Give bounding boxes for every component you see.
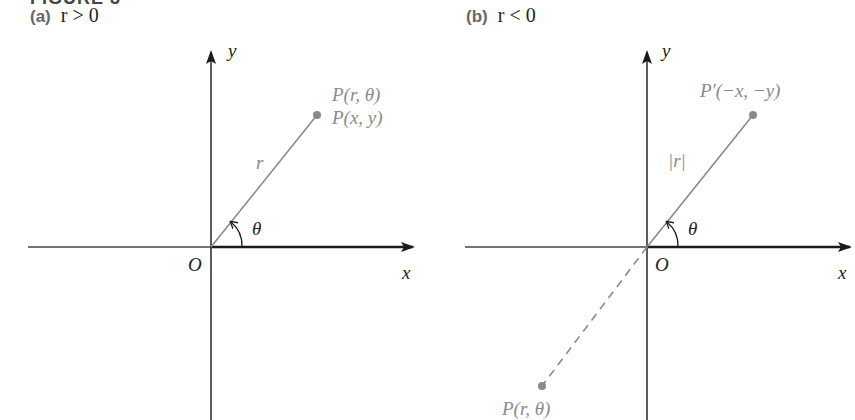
panel-a-point-cartesian-label: P(x, y) <box>332 107 383 129</box>
panel-b-graph <box>465 52 850 420</box>
panel-a-point <box>313 111 321 119</box>
panel-b-point-prime-label: P′(−x, −y) <box>700 80 780 102</box>
panel-b-abs-r-label: |r| <box>668 150 686 172</box>
panel-a-point-polar-label: P(r, θ) <box>332 84 380 106</box>
panel-b-ray <box>647 115 753 247</box>
panel-a-theta-label: θ <box>252 218 261 240</box>
panel-b-dashed-ray <box>542 247 647 386</box>
panel-b-point <box>538 382 546 390</box>
panel-b-x-label: x <box>838 262 846 284</box>
panel-b-angle-arc <box>667 222 678 247</box>
panel-a-ray <box>211 115 317 247</box>
panel-a-x-label: x <box>402 262 410 284</box>
panel-b-y-label: y <box>662 40 670 62</box>
panel-a-y-label: y <box>228 40 236 62</box>
panel-a-angle-arc <box>231 222 242 247</box>
panel-a-origin-label: O <box>188 254 202 276</box>
panel-b-origin-label: O <box>655 254 669 276</box>
panel-b-theta-label: θ <box>688 218 697 240</box>
panel-a-r-label: r <box>256 152 263 174</box>
panel-b-point-label: P(r, θ) <box>502 398 550 420</box>
panel-b-point-prime <box>749 111 757 119</box>
polar-diagram <box>0 0 855 420</box>
